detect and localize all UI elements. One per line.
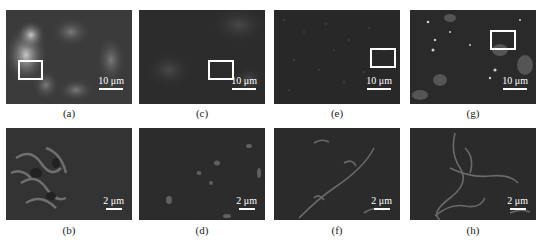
sem-panel-e: 10 μm — [274, 10, 400, 104]
scale-label-e: 10 μm — [366, 76, 392, 86]
scale-label-c: 10 μm — [231, 76, 257, 86]
scale-label-g: 10 μm — [502, 76, 528, 86]
scale-bar-b: 2 μm — [103, 196, 124, 210]
scale-bar-h: 2 μm — [507, 196, 528, 210]
panel-label-h: (h) — [410, 224, 536, 236]
scale-bar-e: 10 μm — [366, 76, 392, 90]
scale-bar-g: 10 μm — [502, 76, 528, 90]
scale-bar-d: 2 μm — [236, 196, 257, 210]
panel-label-b: (b) — [6, 224, 132, 236]
zoom-box-a — [18, 60, 43, 80]
panel-label-d: (d) — [139, 224, 265, 236]
scale-label-b: 2 μm — [103, 196, 124, 206]
sem-figure: 10 μm (a) 10 μm (c) — [0, 0, 543, 242]
scale-bar-a: 10 μm — [98, 76, 124, 90]
zoom-box-c — [208, 60, 234, 80]
panel-label-g: (g) — [410, 107, 536, 119]
scale-label-f: 2 μm — [371, 196, 392, 206]
scale-label-d: 2 μm — [236, 196, 257, 206]
sem-panel-h: 2 μm — [410, 128, 536, 220]
scale-label-a: 10 μm — [98, 76, 124, 86]
sem-panel-d: 2 μm — [139, 128, 265, 220]
zoom-box-g — [490, 30, 516, 50]
sem-panel-g: 10 μm — [410, 10, 536, 104]
sem-panel-f: 2 μm — [274, 128, 400, 220]
scale-bar-c: 10 μm — [231, 76, 257, 90]
scale-bar-f: 2 μm — [371, 196, 392, 210]
panel-label-c: (c) — [139, 107, 265, 119]
sem-panel-c: 10 μm — [139, 10, 265, 104]
sem-panel-b: 2 μm — [6, 128, 132, 220]
panel-label-e: (e) — [274, 107, 400, 119]
zoom-box-e — [370, 48, 396, 68]
scale-label-h: 2 μm — [507, 196, 528, 206]
sem-panel-a: 10 μm — [6, 10, 132, 104]
panel-label-f: (f) — [274, 224, 400, 236]
panel-label-a: (a) — [6, 107, 132, 119]
